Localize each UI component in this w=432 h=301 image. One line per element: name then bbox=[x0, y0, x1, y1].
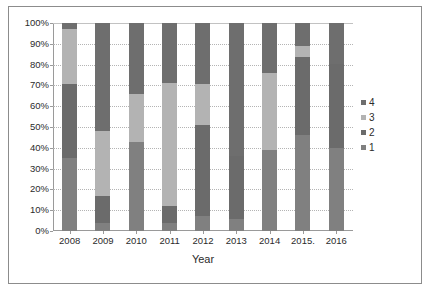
legend-label: 3 bbox=[369, 113, 375, 123]
plot-area: 0%10%20%30%40%50%60%70%80%90%100% 200820… bbox=[53, 23, 353, 231]
x-tick-mark bbox=[136, 231, 137, 234]
bar-slot: 2016 bbox=[320, 23, 353, 231]
x-tick-label: 2013 bbox=[226, 236, 247, 246]
bar-slot: 2013 bbox=[220, 23, 253, 231]
bar-segment-series-2[interactable] bbox=[95, 196, 110, 223]
stacked-bar[interactable] bbox=[229, 23, 244, 231]
bar-segment-series-1[interactable] bbox=[262, 150, 277, 231]
y-tick-label: 70% bbox=[30, 81, 49, 91]
bar-segment-series-4[interactable] bbox=[329, 23, 344, 64]
legend-item-2[interactable]: 2 bbox=[361, 125, 407, 140]
y-tick-label: 40% bbox=[30, 143, 49, 153]
bar-slot: 2014 bbox=[253, 23, 286, 231]
bar-segment-series-3[interactable] bbox=[295, 46, 310, 57]
y-tick-label: 60% bbox=[30, 101, 49, 111]
x-tick-label: 2015. bbox=[291, 236, 315, 246]
x-tick-mark bbox=[103, 231, 104, 234]
legend-swatch-icon bbox=[361, 100, 366, 105]
x-tick-label: 2008 bbox=[59, 236, 80, 246]
bar-segment-series-2[interactable] bbox=[195, 125, 210, 217]
stacked-bar[interactable] bbox=[62, 23, 77, 231]
x-tick-mark bbox=[336, 231, 337, 234]
bar-segment-series-3[interactable] bbox=[129, 94, 144, 142]
stacked-bar[interactable] bbox=[162, 23, 177, 231]
bar-segment-series-1[interactable] bbox=[129, 142, 144, 231]
bar-slot: 2011 bbox=[153, 23, 186, 231]
bar-segment-series-3[interactable] bbox=[262, 73, 277, 150]
legend-item-4[interactable]: 4 bbox=[361, 95, 407, 110]
bar-slot: 2009 bbox=[86, 23, 119, 231]
bar-segment-series-2[interactable] bbox=[162, 206, 177, 223]
legend-item-1[interactable]: 1 bbox=[361, 140, 407, 155]
stacked-bar[interactable] bbox=[95, 23, 110, 231]
y-tick-label: 30% bbox=[30, 164, 49, 174]
x-tick-mark bbox=[236, 231, 237, 234]
y-tick-label: 50% bbox=[30, 122, 49, 132]
bar-segment-series-4[interactable] bbox=[295, 23, 310, 46]
bar-slot: 2010 bbox=[120, 23, 153, 231]
bar-group: 20082009201020112012201320142015.2016 bbox=[53, 23, 353, 231]
bar-segment-series-4[interactable] bbox=[162, 23, 177, 83]
x-tick-label: 2016 bbox=[326, 236, 347, 246]
bar-segment-series-3[interactable] bbox=[62, 29, 77, 84]
x-tick-mark bbox=[203, 231, 204, 234]
bar-segment-series-2[interactable] bbox=[295, 57, 310, 135]
page-text-fragment bbox=[0, 286, 432, 301]
stacked-bar[interactable] bbox=[262, 23, 277, 231]
x-tick-mark bbox=[303, 231, 304, 234]
bar-segment-series-2[interactable] bbox=[229, 156, 244, 218]
bar-segment-series-1[interactable] bbox=[195, 216, 210, 231]
legend-label: 4 bbox=[369, 98, 375, 108]
bar-segment-series-1[interactable] bbox=[95, 223, 110, 231]
x-axis-title: Year bbox=[53, 253, 353, 265]
bar-segment-series-4[interactable] bbox=[129, 23, 144, 94]
bar-segment-series-1[interactable] bbox=[62, 158, 77, 231]
bar-segment-series-3[interactable] bbox=[95, 131, 110, 195]
y-tick-label: 80% bbox=[30, 60, 49, 70]
bar-segment-series-4[interactable] bbox=[229, 23, 244, 156]
y-tick-label: 20% bbox=[30, 185, 49, 195]
legend-label: 2 bbox=[369, 128, 375, 138]
x-tick-label: 2009 bbox=[92, 236, 113, 246]
bar-slot: 2012 bbox=[186, 23, 219, 231]
x-tick-mark bbox=[70, 231, 71, 234]
x-tick-label: 2012 bbox=[192, 236, 213, 246]
x-tick-label: 2010 bbox=[126, 236, 147, 246]
x-tick-label: 2014 bbox=[259, 236, 280, 246]
bar-slot: 2008 bbox=[53, 23, 86, 231]
bar-segment-series-3[interactable] bbox=[195, 84, 210, 125]
stacked-bar[interactable] bbox=[295, 23, 310, 231]
stacked-bar[interactable] bbox=[129, 23, 144, 231]
stacked-bar[interactable] bbox=[195, 23, 210, 231]
legend-swatch-icon bbox=[361, 145, 366, 150]
x-tick-mark bbox=[170, 231, 171, 234]
bar-segment-series-4[interactable] bbox=[195, 23, 210, 84]
legend-swatch-icon bbox=[361, 130, 366, 135]
bar-segment-series-2[interactable] bbox=[62, 84, 77, 158]
bar-segment-series-1[interactable] bbox=[329, 148, 344, 231]
y-tick-label: 100% bbox=[25, 18, 49, 28]
bar-segment-series-4[interactable] bbox=[262, 23, 277, 73]
bar-segment-series-3[interactable] bbox=[162, 83, 177, 206]
bar-segment-series-2[interactable] bbox=[329, 64, 344, 148]
bar-segment-series-1[interactable] bbox=[295, 135, 310, 231]
legend-label: 1 bbox=[369, 143, 375, 153]
legend-item-3[interactable]: 3 bbox=[361, 110, 407, 125]
y-tick-label: 90% bbox=[30, 39, 49, 49]
stacked-bar[interactable] bbox=[329, 23, 344, 231]
y-tick-label: 10% bbox=[30, 205, 49, 215]
bar-segment-series-1[interactable] bbox=[162, 223, 177, 231]
bar-segment-series-1[interactable] bbox=[229, 219, 244, 231]
bar-slot: 2015. bbox=[286, 23, 319, 231]
chart-figure: 0%10%20%30%40%50%60%70%80%90%100% 200820… bbox=[8, 6, 422, 284]
y-tick-mark bbox=[50, 231, 53, 232]
legend-swatch-icon bbox=[361, 115, 366, 120]
y-tick-label: 0% bbox=[35, 226, 49, 236]
x-tick-label: 2011 bbox=[159, 236, 179, 246]
x-tick-mark bbox=[270, 231, 271, 234]
bar-segment-series-4[interactable] bbox=[95, 23, 110, 131]
legend: 4321 bbox=[361, 95, 407, 155]
